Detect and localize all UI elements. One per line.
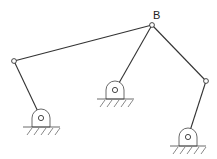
joint-left: [12, 59, 17, 64]
ground-support-middle: [97, 81, 134, 107]
link-B-to-right: [152, 25, 206, 81]
link-left-crank: [14, 61, 41, 118]
ground-support-right: [170, 128, 206, 154]
pivot-left-joint: [38, 115, 43, 120]
link-left-to-B: [14, 25, 152, 61]
pivot-middle-joint: [112, 87, 117, 92]
link-middle-crank: [115, 25, 152, 90]
joint-right: [204, 79, 209, 84]
linkage-diagram: B: [0, 0, 217, 159]
joint-B: [150, 23, 155, 28]
ground-support-left: [23, 109, 60, 135]
pivot-right-joint: [185, 134, 190, 139]
label-B: B: [153, 9, 160, 21]
